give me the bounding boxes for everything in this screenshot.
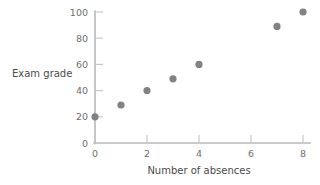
data-point	[169, 75, 176, 82]
x-tick-label: 4	[196, 148, 202, 159]
x-axis-tick-labels: 0 2 4 6 8	[92, 148, 306, 159]
x-tick-label: 6	[248, 148, 254, 159]
y-tick-label: 0	[82, 138, 88, 149]
data-point	[195, 61, 202, 68]
scatter-plot-figure: 100 80 60 40 20 0 0 2 4 6 8 Exam grade N…	[0, 0, 320, 185]
data-point	[91, 113, 98, 120]
data-point-series	[91, 8, 306, 120]
x-tick-label: 2	[144, 148, 150, 159]
data-point	[273, 23, 280, 30]
data-point	[299, 8, 306, 15]
x-tick-label: 8	[300, 148, 306, 159]
y-tick-label: 80	[76, 33, 88, 44]
x-tick-label: 0	[92, 148, 98, 159]
y-tick-label: 100	[70, 7, 88, 18]
x-axis-title: Number of absences	[147, 165, 250, 176]
y-tick-label: 40	[76, 85, 88, 96]
plot-svg: 100 80 60 40 20 0 0 2 4 6 8 Exam grade N…	[0, 0, 320, 185]
y-axis-tick-labels: 100 80 60 40 20 0	[70, 7, 88, 149]
x-axis-ticks	[147, 135, 303, 142]
y-tick-label: 60	[76, 59, 88, 70]
y-axis-ticks	[96, 12, 103, 117]
y-tick-label: 20	[76, 111, 88, 122]
y-axis-title: Exam grade	[12, 68, 72, 79]
data-point	[117, 101, 124, 108]
data-point	[143, 87, 150, 94]
